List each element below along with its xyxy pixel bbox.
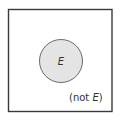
complement-label-prefix: (not	[69, 92, 92, 103]
complement-label: (not E)	[69, 92, 103, 103]
event-e-label: E	[58, 56, 65, 67]
venn-diagram: E (not E)	[0, 0, 120, 122]
complement-label-suffix: )	[99, 92, 103, 103]
